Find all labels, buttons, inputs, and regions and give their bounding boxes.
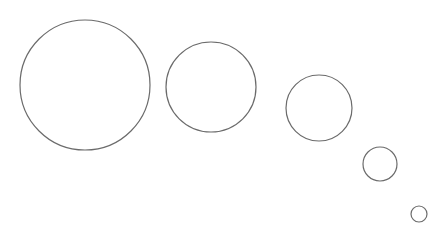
circle-large xyxy=(166,42,256,132)
circle-small xyxy=(363,147,397,181)
circle-medium xyxy=(286,75,352,141)
diagram-canvas xyxy=(0,0,435,230)
circle-smallest xyxy=(411,206,427,222)
circle-largest xyxy=(20,20,150,150)
